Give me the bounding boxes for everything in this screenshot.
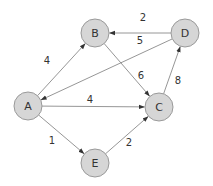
graph-diagram: 42564812 ABCDE	[0, 0, 213, 186]
node-e: E	[81, 149, 109, 177]
node-d: D	[171, 19, 199, 47]
node-label: D	[181, 27, 189, 40]
node-c: C	[145, 93, 173, 121]
edge-weight-c-d: 8	[175, 75, 181, 86]
node-label: B	[91, 27, 99, 40]
edge-weight-a-e: 1	[49, 135, 55, 146]
edge-weight-d-b: 2	[140, 12, 146, 23]
edge-e-to-c	[106, 117, 149, 154]
edge-weight-b-c: 6	[138, 70, 144, 81]
node-label: E	[92, 157, 99, 170]
edge-a-to-c	[42, 106, 145, 107]
node-a: A	[14, 92, 42, 120]
edge-labels-layer: 42564812	[44, 12, 181, 148]
node-b: B	[81, 19, 109, 47]
edge-weight-e-c: 2	[126, 137, 132, 148]
edge-a-to-b	[38, 44, 86, 96]
edge-weight-d-a: 5	[137, 35, 143, 46]
edge-weight-a-b: 4	[44, 55, 50, 66]
node-label: A	[24, 100, 32, 113]
edge-d-to-a	[41, 39, 172, 100]
edge-c-to-d	[164, 47, 181, 94]
node-label: C	[155, 101, 163, 114]
edge-a-to-e	[39, 115, 84, 154]
edge-weight-a-c: 4	[87, 94, 93, 105]
